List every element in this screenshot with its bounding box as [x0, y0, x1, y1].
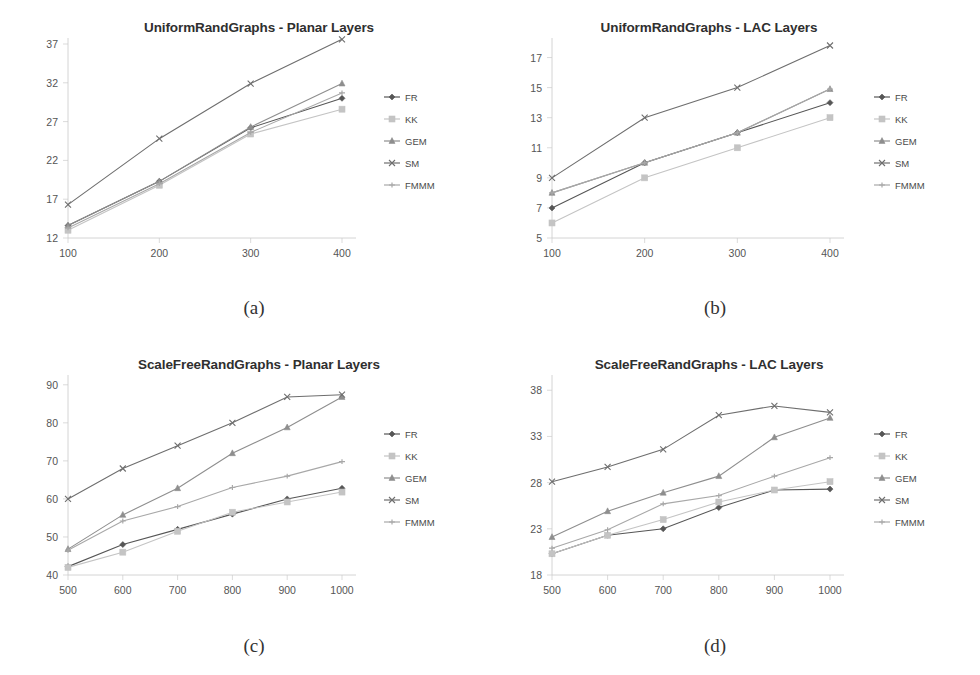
legend-label-FMMM: FMMM: [895, 180, 925, 191]
series-FR: [549, 486, 833, 557]
x-tick-label: 800: [710, 584, 728, 596]
legend-label-KK: KK: [405, 451, 418, 462]
legend-item-FMMM[interactable]: FMMM: [384, 180, 435, 191]
y-tick-label: 13: [530, 112, 542, 124]
y-tick-label: 33: [530, 430, 542, 442]
chart-panel-c: ScaleFreeRandGraphs - Planar Layers 4050…: [0, 337, 490, 675]
x-tick-label: 400: [333, 247, 351, 259]
legend-label-SM: SM: [895, 495, 909, 506]
series-SM: [549, 43, 833, 181]
legend-item-KK[interactable]: KK: [874, 114, 908, 125]
x-tick-label: 500: [59, 584, 77, 596]
legend-label-GEM: GEM: [405, 136, 427, 147]
x-tick-label: 600: [599, 584, 617, 596]
x-tick-label: 900: [766, 584, 784, 596]
y-tick-label: 17: [46, 193, 58, 205]
chart-legend: FRKKGEMSMFMMM: [874, 429, 925, 528]
y-tick-label: 70: [46, 455, 58, 467]
legend-item-FR[interactable]: FR: [874, 429, 908, 440]
y-tick-label: 23: [530, 523, 542, 535]
legend-item-GEM[interactable]: GEM: [384, 136, 427, 147]
chart-caption-a: (a): [0, 297, 490, 319]
legend-label-FMMM: FMMM: [405, 180, 435, 191]
y-tick-label: 90: [46, 379, 58, 391]
chart-legend: FRKKGEMSMFMMM: [384, 429, 435, 528]
chart-legend: FRKKGEMSMFMMM: [384, 92, 435, 191]
chart-legend: FRKKGEMSMFMMM: [874, 92, 925, 191]
legend-item-KK[interactable]: KK: [384, 451, 418, 462]
y-tick-label: 15: [530, 82, 542, 94]
chart-svg-a: 121722273237100200300400FRKKGEMSMFMMM: [0, 0, 490, 300]
legend-label-SM: SM: [895, 158, 909, 169]
legend-item-FR[interactable]: FR: [384, 92, 418, 103]
chart-panel-b: UniformRandGraphs - LAC Layers 579111315…: [490, 0, 980, 337]
series-SM: [65, 392, 345, 502]
series-FR: [549, 100, 833, 211]
x-tick-label: 200: [151, 247, 169, 259]
x-tick-label: 200: [636, 247, 654, 259]
x-tick-label: 800: [224, 584, 242, 596]
legend-label-KK: KK: [895, 451, 908, 462]
legend-item-FR[interactable]: FR: [874, 92, 908, 103]
legend-item-KK[interactable]: KK: [874, 451, 908, 462]
x-tick-label: 700: [169, 584, 187, 596]
y-tick-label: 37: [46, 38, 58, 50]
series-FMMM: [549, 455, 833, 550]
legend-item-SM[interactable]: SM: [384, 495, 419, 506]
x-tick-label: 900: [278, 584, 296, 596]
x-tick-label: 1000: [818, 584, 842, 596]
y-tick-label: 28: [530, 477, 542, 489]
chart-plot-a: 121722273237100200300400FRKKGEMSMFMMM: [0, 0, 490, 337]
series-SM: [65, 36, 345, 207]
chart-plot-b: 57911131517100200300400FRKKGEMSMFMMM: [490, 0, 980, 337]
legend-item-KK[interactable]: KK: [384, 114, 418, 125]
legend-label-GEM: GEM: [405, 473, 427, 484]
series-KK: [549, 115, 833, 226]
legend-label-FR: FR: [895, 429, 908, 440]
y-tick-label: 32: [46, 77, 58, 89]
legend-item-SM[interactable]: SM: [874, 495, 909, 506]
series-KK: [65, 106, 345, 233]
chart-panel-d: ScaleFreeRandGraphs - LAC Layers 1823283…: [490, 337, 980, 675]
y-tick-label: 5: [536, 232, 542, 244]
x-tick-label: 600: [114, 584, 132, 596]
chart-plot-d: 18232833385006007008009001000FRKKGEMSMFM…: [490, 337, 980, 675]
chart-caption-b: (b): [490, 297, 980, 319]
y-tick-label: 60: [46, 493, 58, 505]
y-tick-label: 7: [536, 202, 542, 214]
legend-label-FR: FR: [405, 92, 418, 103]
legend-item-SM[interactable]: SM: [874, 158, 909, 169]
chart-caption-d: (d): [490, 635, 980, 657]
legend-label-KK: KK: [405, 114, 418, 125]
y-tick-label: 38: [530, 384, 542, 396]
chart-svg-b: 57911131517100200300400FRKKGEMSMFMMM: [490, 0, 980, 300]
legend-label-SM: SM: [405, 495, 419, 506]
series-FMMM: [65, 459, 345, 552]
legend-item-SM[interactable]: SM: [384, 158, 419, 169]
x-tick-label: 300: [242, 247, 260, 259]
chart-panel-a: UniformRandGraphs - Planar Layers 121722…: [0, 0, 490, 337]
series-SM: [549, 403, 833, 485]
legend-item-GEM[interactable]: GEM: [874, 136, 917, 147]
y-tick-label: 22: [46, 154, 58, 166]
y-tick-label: 40: [46, 569, 58, 581]
legend-item-FMMM[interactable]: FMMM: [384, 517, 435, 528]
x-tick-label: 1000: [330, 584, 354, 596]
legend-label-SM: SM: [405, 158, 419, 169]
y-tick-label: 80: [46, 417, 58, 429]
legend-label-KK: KK: [895, 114, 908, 125]
chart-svg-c: 4050607080905006007008009001000FRKKGEMSM…: [0, 337, 490, 637]
legend-label-FR: FR: [405, 429, 418, 440]
chart-plot-c: 4050607080905006007008009001000FRKKGEMSM…: [0, 337, 490, 675]
chart-svg-d: 18232833385006007008009001000FRKKGEMSMFM…: [490, 337, 980, 637]
legend-label-FMMM: FMMM: [895, 517, 925, 528]
legend-item-GEM[interactable]: GEM: [874, 473, 917, 484]
x-tick-label: 300: [729, 247, 747, 259]
legend-item-FMMM[interactable]: FMMM: [874, 517, 925, 528]
series-GEM: [65, 394, 345, 552]
y-tick-label: 11: [531, 142, 542, 154]
legend-item-GEM[interactable]: GEM: [384, 473, 427, 484]
y-tick-label: 9: [536, 172, 542, 184]
legend-item-FR[interactable]: FR: [384, 429, 418, 440]
legend-item-FMMM[interactable]: FMMM: [874, 180, 925, 191]
